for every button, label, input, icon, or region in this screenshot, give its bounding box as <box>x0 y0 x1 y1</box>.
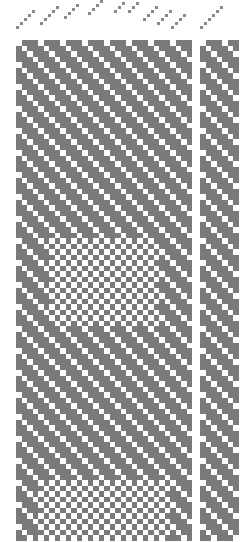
thread-dot <box>204 22 207 25</box>
thread-dot <box>92 8 95 11</box>
thread-dot <box>157 22 160 25</box>
thread-dot <box>16 26 19 29</box>
thread-dot <box>175 22 178 25</box>
thread-dot <box>171 26 174 29</box>
thread-dot <box>200 26 203 29</box>
thread-dot <box>114 10 117 13</box>
thread-dot <box>216 10 219 13</box>
thread-dot <box>56 6 59 9</box>
threading-draft <box>0 0 241 32</box>
thread-dot <box>161 18 164 21</box>
thread-dot <box>122 2 125 5</box>
thread-dot <box>220 6 223 9</box>
thread-dot <box>68 12 71 15</box>
thread-dot <box>151 10 154 13</box>
thread-dot <box>208 18 211 21</box>
thread-dot <box>118 6 121 9</box>
thread-dot <box>40 22 43 25</box>
thread-dot <box>28 14 31 17</box>
thread-dot <box>132 6 135 9</box>
thread-dot <box>72 8 75 11</box>
thread-dot <box>100 0 103 3</box>
side-drawdown <box>200 40 239 541</box>
thread-dot <box>64 16 67 19</box>
thread-dot <box>20 22 23 25</box>
thread-dot <box>169 10 172 13</box>
thread-dot <box>128 10 131 13</box>
thread-dot <box>143 18 146 21</box>
thread-dot <box>52 10 55 13</box>
thread-dot <box>212 14 215 17</box>
thread-dot <box>32 10 35 13</box>
thread-dot <box>155 6 158 9</box>
thread-dot <box>183 14 186 17</box>
thread-dot <box>24 18 27 21</box>
thread-dot <box>76 4 79 7</box>
thread-dot <box>165 14 168 17</box>
thread-dot <box>96 4 99 7</box>
thread-dot <box>44 18 47 21</box>
thread-dot <box>147 14 150 17</box>
thread-dot <box>136 2 139 5</box>
thread-dot <box>88 12 91 15</box>
thread-dot <box>179 18 182 21</box>
main-drawdown <box>16 40 192 541</box>
thread-dot <box>48 14 51 17</box>
